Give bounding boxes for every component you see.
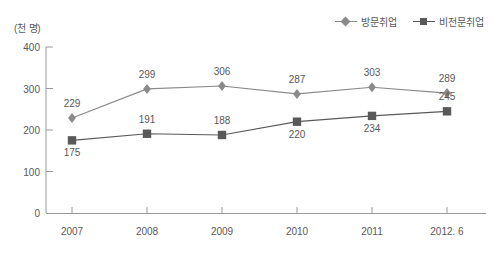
- data-point-label: 191: [139, 114, 156, 125]
- y-axis-tick-label: 200: [23, 125, 40, 136]
- data-point-label: 303: [364, 67, 381, 78]
- x-axis-tick-label: 2010: [286, 226, 308, 237]
- y-axis-tick-label: 400: [23, 42, 40, 53]
- x-axis-tick-label: 2007: [61, 226, 83, 237]
- x-axis-tick-label: 2009: [211, 226, 233, 237]
- data-point-label: 188: [214, 115, 231, 126]
- data-point-label: 289: [439, 73, 456, 84]
- data-point-label: 234: [364, 123, 381, 134]
- chart-container: (천 명) 방문취업 비전문취업 01002003004002007200820…: [0, 0, 492, 256]
- data-point-label: 220: [289, 129, 306, 140]
- y-axis-tick-label: 100: [23, 166, 40, 177]
- data-point-label: 306: [214, 66, 231, 77]
- data-point-label: 299: [139, 69, 156, 80]
- chart-labels-layer: 0100200300400200720082009201020112012. 6…: [0, 0, 492, 256]
- data-point-label: 175: [64, 147, 81, 158]
- x-axis-tick-label: 2012. 6: [430, 226, 463, 237]
- y-axis-tick-label: 0: [34, 208, 40, 219]
- x-axis-tick-label: 2011: [361, 226, 383, 237]
- y-axis-tick-label: 300: [23, 83, 40, 94]
- data-point-label: 287: [289, 74, 306, 85]
- data-point-label: 229: [64, 98, 81, 109]
- data-point-label: 245: [439, 91, 456, 102]
- x-axis-tick-label: 2008: [136, 226, 158, 237]
